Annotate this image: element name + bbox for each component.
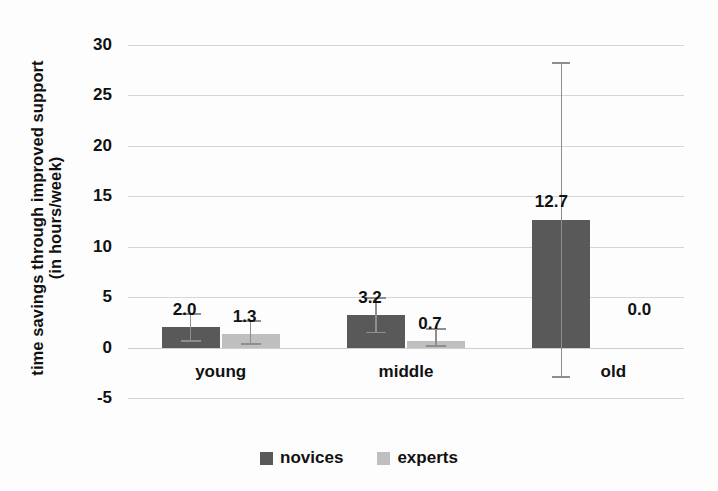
gridline--5 xyxy=(128,398,684,399)
category-label-young: young xyxy=(195,362,246,382)
legend-item-experts[interactable]: experts xyxy=(377,448,457,468)
y-tick-label: 30 xyxy=(93,35,112,55)
legend-swatch-experts-icon xyxy=(377,452,390,465)
y-tick-label: 20 xyxy=(93,136,112,156)
gridline-5 xyxy=(128,297,684,298)
error-bar-cap-top xyxy=(552,62,570,64)
value-label-novices-young: 2.0 xyxy=(173,300,197,320)
y-tick-label: 15 xyxy=(93,186,112,206)
gridline-15 xyxy=(128,196,684,197)
error-bar-cap-bottom xyxy=(181,340,201,342)
gridline-25 xyxy=(128,95,684,96)
error-bar-novices-old xyxy=(532,62,590,378)
legend-swatch-novices-icon xyxy=(260,452,273,465)
y-tick-label: 25 xyxy=(93,85,112,105)
chart-legend: novicesexperts xyxy=(0,448,718,468)
error-bar-cap-bottom xyxy=(241,343,261,345)
gridline-10 xyxy=(128,247,684,248)
error-bar-cap-bottom xyxy=(366,332,386,334)
y-tick-label: -5 xyxy=(97,388,112,408)
legend-item-novices[interactable]: novices xyxy=(260,448,343,468)
value-label-experts-old: 0.0 xyxy=(628,300,652,320)
y-axis-title-line-1: time savings through improved support xyxy=(28,60,46,375)
category-label-middle: middle xyxy=(379,362,434,382)
value-label-novices-middle: 3.2 xyxy=(358,288,382,308)
legend-label-experts: experts xyxy=(397,448,457,468)
legend-label-novices: novices xyxy=(280,448,343,468)
error-bar-cap-bottom xyxy=(426,345,446,347)
gridline-0 xyxy=(128,348,684,349)
y-tick-label: 0 xyxy=(103,338,112,358)
error-bar-cap-bottom xyxy=(552,376,570,378)
gridline-20 xyxy=(128,146,684,147)
error-bar-stem xyxy=(561,62,563,378)
bar-chart: time savings through improved support (i… xyxy=(0,0,718,491)
value-label-experts-middle: 0.7 xyxy=(418,314,442,334)
value-label-experts-young: 1.3 xyxy=(233,307,257,327)
category-label-old: old xyxy=(601,362,627,382)
y-tick-label: 10 xyxy=(93,237,112,257)
value-label-novices-old: 12.7 xyxy=(535,192,568,212)
y-axis-ticks: 302520151050-5 xyxy=(55,0,121,491)
gridline-30 xyxy=(128,45,684,46)
plot-area: 2.01.3young3.20.7middle12.70.0old xyxy=(128,45,684,398)
y-tick-label: 5 xyxy=(103,287,112,307)
